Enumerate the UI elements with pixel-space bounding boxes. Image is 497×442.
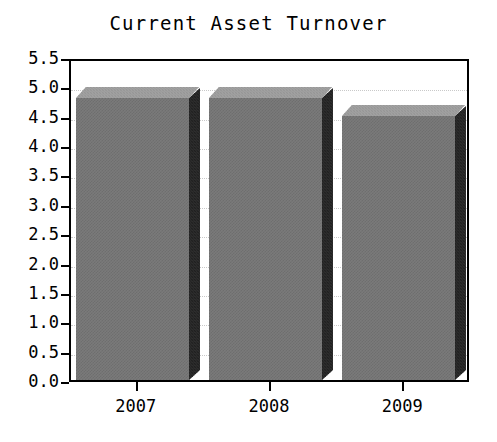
y-axis-tick xyxy=(61,235,69,237)
y-axis-tick xyxy=(61,353,69,355)
bar-side-face xyxy=(322,88,333,380)
y-axis-tick xyxy=(61,118,69,120)
y-axis-label: 2.5 xyxy=(28,224,59,244)
x-axis-label: 2009 xyxy=(382,396,423,416)
bar-top-face xyxy=(342,105,465,116)
x-axis-label: 2007 xyxy=(115,396,156,416)
y-axis-tick xyxy=(61,147,69,149)
x-axis-tick xyxy=(269,382,271,391)
bar-top-face xyxy=(209,87,332,98)
bar[interactable] xyxy=(76,98,189,380)
y-axis-label: 5.5 xyxy=(28,48,59,68)
bar-side-face xyxy=(455,106,466,380)
chart-container: Current Asset Turnover 5.55.04.54.03.53.… xyxy=(0,0,497,442)
bar-front-face xyxy=(76,98,189,380)
y-axis-label: 4.0 xyxy=(28,136,59,156)
bar-front-face xyxy=(342,116,455,380)
y-axis-tick xyxy=(61,265,69,267)
y-axis-label: 3.0 xyxy=(28,195,59,215)
bar-side-face xyxy=(189,88,200,380)
y-axis-tick xyxy=(61,382,69,384)
y-axis-label: 0.5 xyxy=(28,342,59,362)
y-axis-label: 0.0 xyxy=(28,371,59,391)
y-axis-label: 2.0 xyxy=(28,254,59,274)
y-axis-tick xyxy=(61,323,69,325)
y-axis-label: 3.5 xyxy=(28,165,59,185)
y-axis-label: 5.0 xyxy=(28,77,59,97)
x-axis-tick xyxy=(402,382,404,391)
y-axis-label: 4.5 xyxy=(28,107,59,127)
x-axis-tick xyxy=(136,382,138,391)
chart-title: Current Asset Turnover xyxy=(0,12,497,34)
plot-inner xyxy=(71,61,467,380)
y-axis-tick xyxy=(61,206,69,208)
y-axis-tick xyxy=(61,88,69,90)
y-axis-tick xyxy=(61,59,69,61)
bar[interactable] xyxy=(342,116,455,380)
y-axis-label: 1.5 xyxy=(28,283,59,303)
y-axis-tick xyxy=(61,176,69,178)
bar-front-face xyxy=(209,98,322,380)
y-axis-label: 1.0 xyxy=(28,312,59,332)
bar[interactable] xyxy=(209,98,322,380)
y-axis-tick xyxy=(61,294,69,296)
x-axis-label: 2008 xyxy=(249,396,290,416)
plot-area xyxy=(69,59,469,382)
bar-top-face xyxy=(76,87,199,98)
